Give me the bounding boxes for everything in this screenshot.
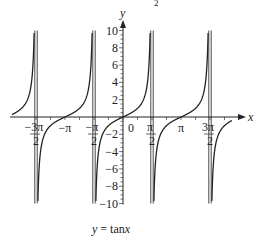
x-axis-arrow-icon — [238, 114, 246, 120]
y-tick-label: −6 — [105, 162, 118, 176]
axes — [10, 20, 246, 205]
x-tick-label-numerator: π — [147, 120, 153, 134]
x-tick-label-denominator: 2 — [207, 134, 213, 148]
y-tick-label: 4 — [112, 75, 118, 89]
y-tick-label: −4 — [105, 145, 118, 159]
caption-var: x — [124, 222, 131, 236]
y-tick-label: −2 — [105, 127, 118, 141]
top-fragment: 2 — [154, 0, 159, 8]
x-tick-label-numerator: −π — [86, 120, 99, 134]
x-tick-label-denominator: 2 — [33, 134, 39, 148]
y-tick-label: 6 — [112, 58, 118, 72]
x-tick-label-denominator: 2 — [91, 134, 97, 148]
tan-branch — [212, 121, 232, 202]
x-tick-label-denominator: 2 — [149, 134, 155, 148]
x-tick-label-numerator: 3π — [202, 120, 214, 134]
y-tick-label: −10 — [99, 197, 118, 211]
tan-branch — [12, 33, 34, 115]
caption: y = tanx — [91, 222, 131, 236]
caption-rhs: = tan — [97, 222, 124, 236]
x-tick-label: π — [178, 121, 184, 135]
x-tick-label: 0 — [128, 121, 134, 135]
y-tick-label: 2 — [112, 93, 118, 107]
y-tick-label: 8 — [112, 41, 118, 55]
x-axis-label: x — [247, 110, 254, 124]
x-tick-label: −π — [59, 121, 72, 135]
y-axis-arrow-icon — [120, 20, 126, 28]
y-tick-label: 10 — [106, 24, 118, 38]
y-tick-label: −8 — [105, 179, 118, 193]
y-axis-label: y — [119, 6, 126, 20]
x-tick-label-numerator: −3π — [25, 120, 44, 134]
tan-chart: 108642−2−4−6−8−10−3π2−π−π20π2π3π2 y x 2 … — [0, 0, 265, 244]
